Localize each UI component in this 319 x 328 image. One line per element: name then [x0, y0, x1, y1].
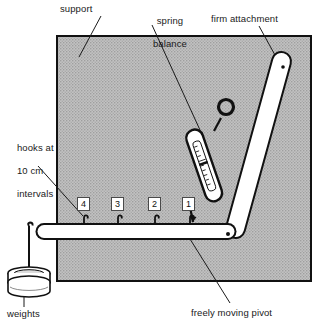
label-weights: weights	[7, 308, 40, 320]
label-spring-balance: spring balance	[142, 3, 187, 61]
hook-number-3: 3	[111, 197, 124, 211]
label-spring-balance-line2: balance	[153, 38, 187, 49]
firm-attachment-pin	[281, 65, 285, 69]
label-hooks-line1: hooks at	[17, 142, 54, 153]
label-freely-moving-pivot: freely moving pivot	[191, 307, 272, 319]
diagram-canvas: support spring balance firm attachment h…	[0, 0, 319, 328]
label-spring-balance-line1: spring	[157, 15, 183, 26]
label-hooks-intervals: hooks at 10 cm intervals	[6, 130, 54, 211]
label-hooks-line3: intervals	[17, 188, 53, 199]
label-firm-attachment: firm attachment	[211, 13, 278, 25]
pan-disc-lower	[8, 282, 50, 297]
hook-number-1: 1	[182, 197, 195, 211]
lever-bar	[44, 232, 230, 237]
label-support: support	[60, 3, 92, 15]
bar-end-hook	[28, 223, 32, 232]
pivot-pin	[226, 232, 230, 236]
label-hooks-line2: 10 cm	[17, 165, 43, 176]
hook-number-4: 4	[77, 197, 90, 211]
hook-number-2: 2	[148, 197, 161, 211]
